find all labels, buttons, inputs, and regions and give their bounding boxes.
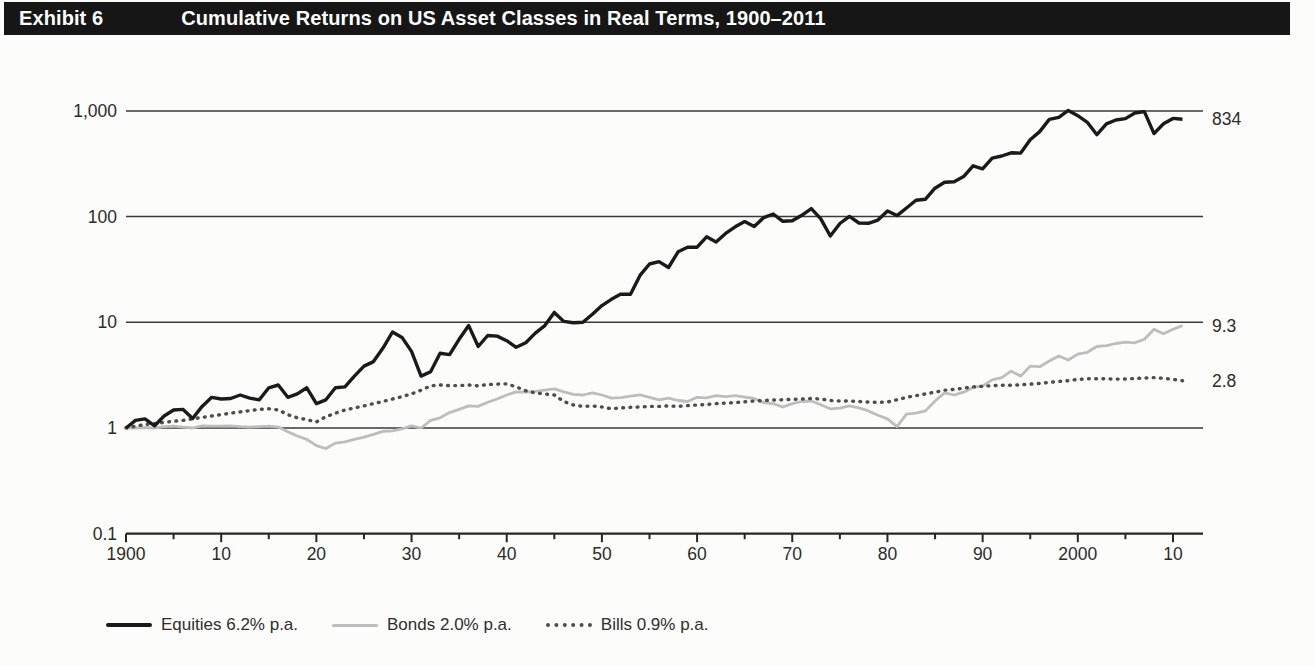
x-tick-label-1970: 70 [783,544,803,564]
bills-line [126,378,1183,428]
y-tick-label-10: 10 [98,312,118,332]
legend-item-equities: Equities 6.2% p.a. [106,615,298,635]
x-tick-label-2000: 2000 [1058,544,1097,564]
y-tick-label-100: 100 [88,207,117,227]
exhibit-page: Exhibit 6 Cumulative Returns on US Asset… [0,0,1315,666]
x-tick-label-1920: 20 [307,544,327,564]
bills-line-swatch-icon [546,623,592,627]
bonds-end-value-label: 9.3 [1212,316,1236,336]
x-tick-label-1930: 30 [402,544,422,564]
equities-line [126,110,1183,428]
legend-item-bills: Bills 0.9% p.a. [546,615,709,635]
x-tick-label-1900: 1900 [107,544,146,564]
legend-label-equities: Equities 6.2% p.a. [161,615,298,635]
legend-item-bonds: Bonds 2.0% p.a. [332,615,512,635]
x-tick-label-1960: 60 [687,544,707,564]
bonds-line [126,326,1183,449]
x-tick-label-1940: 40 [497,544,517,564]
bills-end-value-label: 2.8 [1212,371,1236,391]
equities-end-value-label: 834 [1212,109,1241,129]
x-tick-label-1950: 50 [592,544,612,564]
x-tick-label-1990: 90 [973,544,993,564]
x-tick-label-1980: 80 [878,544,898,564]
chart-legend: Equities 6.2% p.a. Bonds 2.0% p.a. Bills… [106,613,709,637]
cumulative-returns-chart: 0.11101001,00019001020304050607080902000… [0,0,1315,666]
x-tick-label-1910: 10 [211,544,231,564]
bonds-line-swatch-icon [332,624,378,627]
y-tick-label-0.1: 0.1 [93,524,117,544]
legend-label-bonds: Bonds 2.0% p.a. [387,615,512,635]
y-tick-label-1: 1 [107,418,117,438]
x-tick-label-2010: 10 [1163,544,1183,564]
y-tick-label-1,000: 1,000 [73,101,117,121]
legend-label-bills: Bills 0.9% p.a. [601,615,709,635]
equities-line-swatch-icon [106,623,152,627]
